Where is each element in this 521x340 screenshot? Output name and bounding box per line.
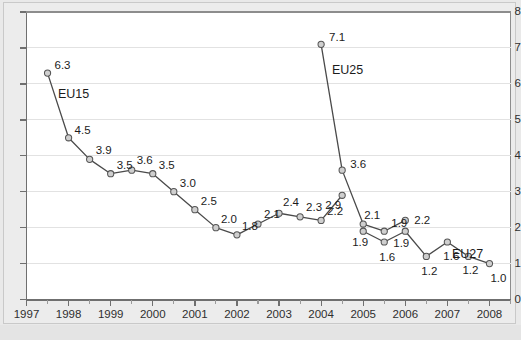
data-point-label: 3.9 [96, 144, 112, 156]
data-point-label: 1.2 [462, 264, 478, 276]
data-point-marker [44, 70, 50, 76]
series-annotation-eu27: EU27 [452, 248, 483, 261]
data-point-label: 7.1 [329, 31, 345, 43]
bottom-strip [0, 325, 521, 340]
data-point-marker [65, 135, 71, 141]
data-point-label: 3.6 [350, 158, 366, 170]
data-point-label: 1.9 [393, 237, 409, 249]
data-point-marker [360, 221, 366, 227]
data-point-label: 3.5 [159, 159, 175, 171]
data-point-label: 3.6 [137, 154, 153, 166]
data-point-marker [318, 41, 324, 47]
data-point-marker [381, 239, 387, 245]
data-point-marker [318, 217, 324, 223]
series-lines [0, 0, 521, 340]
data-point-label: 1.9 [352, 236, 368, 248]
data-point-label: 1.2 [421, 265, 437, 277]
data-point-marker [150, 171, 156, 177]
data-point-label: 2.1 [364, 209, 380, 221]
data-point-label: 3.0 [180, 177, 196, 189]
data-point-label: 6.3 [55, 59, 71, 71]
data-point-marker [423, 253, 429, 259]
data-point-label: 2.2 [414, 214, 430, 226]
data-point-marker [444, 239, 450, 245]
series-annotation-eu15: EU15 [58, 88, 89, 101]
data-point-label: 2.1 [264, 208, 280, 220]
data-point-marker [360, 228, 366, 234]
data-point-marker [339, 167, 345, 173]
data-point-marker [486, 260, 492, 266]
data-point-marker [339, 192, 345, 198]
data-point-label: 2.3 [306, 201, 322, 213]
data-point-label: 2.5 [201, 195, 217, 207]
chart-figure: 012345678 199719981999200020012002200320… [0, 0, 521, 340]
data-point-label: 2.4 [283, 196, 299, 208]
data-point-marker [108, 171, 114, 177]
data-point-label: 3.5 [117, 159, 133, 171]
data-point-label: 2.0 [221, 213, 237, 225]
data-point-marker [213, 225, 219, 231]
data-point-label: 2.9 [325, 199, 341, 211]
data-point-label: 1.6 [379, 251, 395, 263]
data-point-marker [381, 228, 387, 234]
data-point-marker [171, 189, 177, 195]
data-point-label: 4.5 [75, 124, 91, 136]
data-point-label: 1.8 [242, 220, 258, 232]
data-point-marker [87, 156, 93, 162]
data-point-label: 1.0 [490, 272, 506, 284]
data-point-label: 1.9 [391, 217, 407, 229]
data-point-marker [192, 207, 198, 213]
data-point-marker [234, 232, 240, 238]
series-annotation-eu25: EU25 [332, 64, 363, 77]
data-point-marker [297, 214, 303, 220]
